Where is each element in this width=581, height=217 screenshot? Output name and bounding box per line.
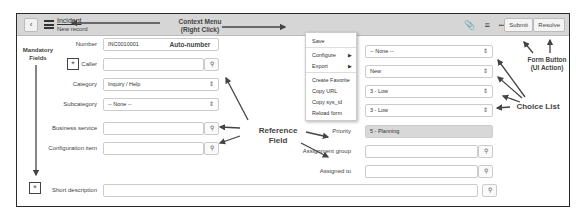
- select-caret-icon: ⇕: [483, 86, 488, 97]
- chevron-right-icon: ▶: [348, 51, 352, 59]
- sliders-icon[interactable]: ≡: [484, 19, 489, 31]
- menu-item-save[interactable]: Save: [306, 35, 356, 46]
- select-caret-icon: ⇕: [209, 79, 214, 90]
- configuration-item-field[interactable]: [103, 142, 204, 155]
- mandatory-indicator: *: [67, 58, 79, 70]
- select-caret-icon: ⇕: [483, 66, 488, 77]
- form-window: ‹ Incident New record 📎 ≡ ••• Submit Res…: [16, 13, 570, 207]
- subcategory-select[interactable]: -- None --⇕: [103, 98, 219, 111]
- hamburger-icon[interactable]: [44, 20, 54, 29]
- select-caret-icon: ⇕: [483, 46, 488, 57]
- caller-field[interactable]: [103, 58, 204, 71]
- form-subtitle: New record: [57, 25, 88, 33]
- menu-item-reload-form[interactable]: Reload form: [306, 107, 356, 118]
- assigned-to-label: Assigned to: [271, 168, 351, 174]
- menu-item-create-favorite[interactable]: Create Favorite: [306, 74, 356, 85]
- context-menu: Save Configure▶ Export▶ Create Favorite …: [305, 32, 357, 121]
- header-icons: 📎 ≡ •••: [464, 19, 505, 31]
- business-service-label: Business service: [17, 125, 97, 131]
- resolve-button[interactable]: Resolve: [533, 18, 565, 32]
- impact-select[interactable]: 3 - Low⇕: [365, 85, 493, 98]
- chevron-right-icon: ▶: [348, 62, 352, 70]
- menu-divider: [306, 72, 356, 73]
- urgency-select[interactable]: 3 - Low⇕: [365, 104, 493, 117]
- mandatory-indicator: *: [29, 182, 41, 194]
- lightbulb-icon: ⚲: [488, 187, 492, 193]
- short-description-field[interactable]: [103, 184, 478, 197]
- suggestion-button[interactable]: ⚲: [482, 184, 497, 197]
- form-title: Incident: [57, 17, 88, 25]
- menu-item-export[interactable]: Export▶: [306, 60, 356, 71]
- caller-lookup-button[interactable]: ⚲: [204, 58, 219, 71]
- annotation-choice-list: Choice List: [508, 103, 568, 111]
- category-label: Category: [17, 81, 97, 87]
- search-icon: ⚲: [484, 148, 488, 154]
- business-service-field[interactable]: [103, 122, 204, 135]
- assignment-group-field[interactable]: [365, 145, 478, 158]
- annotation-mandatory: Mandatory Fields: [18, 46, 58, 62]
- assignment-group-label: Assignment group: [271, 148, 351, 154]
- business-service-lookup-button[interactable]: ⚲: [204, 122, 219, 135]
- select-caret-icon: ⇕: [209, 99, 214, 110]
- title-block: Incident New record: [57, 17, 88, 33]
- subcategory-label: Subcategory: [17, 101, 97, 107]
- search-icon: ⚲: [210, 145, 214, 151]
- menu-divider: [306, 47, 356, 48]
- search-icon: ⚲: [210, 125, 214, 131]
- assigned-to-lookup-button[interactable]: ⚲: [478, 165, 493, 178]
- menu-item-configure[interactable]: Configure▶: [306, 49, 356, 60]
- configuration-item-lookup-button[interactable]: ⚲: [204, 142, 219, 155]
- submit-button[interactable]: Submit: [504, 18, 533, 32]
- search-icon: ⚲: [484, 168, 488, 174]
- annotation-auto-number: Auto-number: [155, 41, 225, 49]
- search-icon: ⚲: [210, 61, 214, 67]
- menu-item-copy-sys-id[interactable]: Copy sys_id: [306, 96, 356, 107]
- menu-item-copy-url[interactable]: Copy URL: [306, 85, 356, 96]
- paperclip-icon[interactable]: 📎: [464, 19, 475, 31]
- chevron-left-icon: ‹: [30, 20, 33, 29]
- annotation-form-button: Form Button (UI Action): [517, 56, 577, 72]
- annotation-context-menu: Context Menu (Right Click): [155, 18, 245, 34]
- configuration-item-label: Configuration item: [17, 145, 97, 151]
- category-select[interactable]: Inquiry / Help⇕: [103, 78, 219, 91]
- priority-field: 5 - Planning: [365, 125, 493, 138]
- state-select[interactable]: New⇕: [365, 65, 493, 78]
- select-caret-icon: ⇕: [483, 105, 488, 116]
- form-header: ‹ Incident New record 📎 ≡ ••• Submit Res…: [17, 14, 569, 36]
- assignment-group-lookup-button[interactable]: ⚲: [478, 145, 493, 158]
- contact-type-select[interactable]: -- None --⇕: [365, 45, 493, 58]
- annotation-reference: Reference Field: [243, 126, 313, 146]
- back-button[interactable]: ‹: [24, 18, 38, 32]
- assigned-to-field[interactable]: [365, 165, 478, 178]
